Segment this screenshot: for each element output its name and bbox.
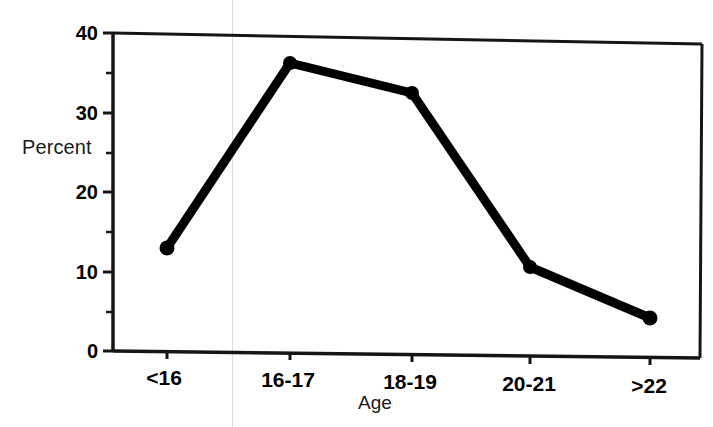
y-axis-title: Percent — [22, 136, 92, 159]
y-tick-label-20: 20 — [58, 181, 98, 204]
chart-figure: 40 30 20 10 0 Percent <16 16-17 18-19 20… — [0, 0, 713, 427]
data-point-marker — [643, 311, 658, 326]
data-line-percent — [167, 63, 650, 318]
data-point-marker — [160, 241, 175, 256]
x-axis-title: Age — [358, 392, 392, 414]
x-tick-label-under-16: <16 — [146, 366, 182, 390]
data-point-marker — [283, 56, 297, 70]
y-tick-label-30: 30 — [58, 102, 98, 125]
x-tick-label-18-19: 18-19 — [383, 370, 437, 394]
y-tick-label-10: 10 — [58, 261, 98, 284]
chart-plot-area — [0, 0, 713, 427]
x-tick-label-over-22: >22 — [631, 374, 667, 398]
x-tick-label-20-21: 20-21 — [502, 372, 556, 396]
data-point-marker — [523, 260, 537, 274]
data-point-marker — [405, 86, 419, 100]
y-tick-label-0: 0 — [58, 340, 98, 363]
y-tick-label-40: 40 — [58, 22, 98, 45]
x-tick-label-16-17: 16-17 — [261, 368, 315, 392]
